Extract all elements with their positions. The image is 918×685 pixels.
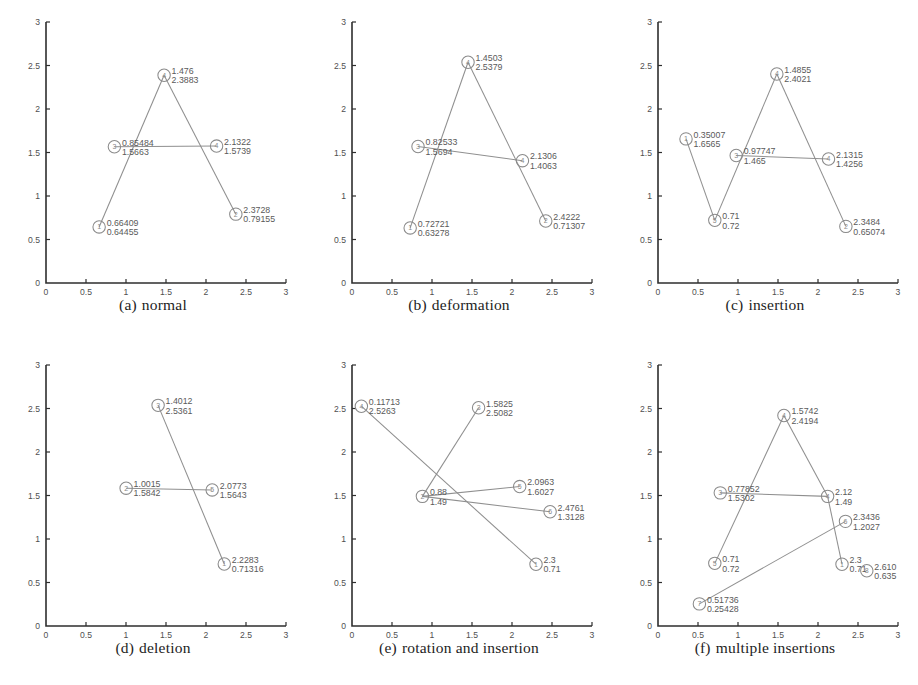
panel-caption-tag-e: (e): [379, 639, 397, 656]
plot-svg-e: 00.511.522.5300.511.522.5340.117132.5263…: [306, 343, 612, 643]
point-id-c-0: 1: [684, 135, 688, 142]
point-label-y-d-3: 0.71316: [232, 564, 264, 574]
point-id-f-0: 7: [697, 600, 701, 607]
y-tick-label-c-4: 2: [647, 104, 652, 114]
point-id-a-3: 4: [215, 142, 219, 149]
edges-a: [99, 75, 236, 227]
point-id-f-3: 4: [782, 411, 786, 418]
axis-lines-f: [658, 365, 898, 626]
point-id-f-5: 6: [844, 517, 848, 524]
point-label-y-a-4: 0.79155: [243, 214, 275, 224]
edges-f: [699, 415, 845, 603]
y-tick-label-c-3: 1.5: [640, 148, 652, 158]
y-tick-label-a-5: 2.5: [28, 61, 40, 71]
y-tick-label-c-6: 3: [647, 17, 652, 27]
edge-e-0: [361, 406, 536, 564]
point-label-y-b-3: 1.4063: [530, 161, 557, 171]
panel-a: 00.511.522.5300.511.522.5310.664090.6445…: [0, 0, 306, 343]
point-label-y-a-2: 2.3883: [172, 75, 199, 85]
y-tick-label-e-3: 1.5: [334, 490, 346, 500]
point-label-y-b-4: 0.71307: [553, 221, 585, 231]
point-label-y-c-3: 2.4021: [784, 74, 811, 84]
y-tick-label-f-0: 0: [647, 621, 652, 631]
panel-caption-tag-f: (f): [695, 639, 711, 656]
point-label-y-d-1: 2.5361: [166, 405, 193, 415]
edge-b-1: [468, 62, 546, 221]
points-e: 40.117132.526320.881.4931.58252.508252.0…: [355, 397, 584, 574]
y-tick-label-a-0: 0: [35, 278, 40, 288]
plot-area-c: 00.511.522.5300.511.522.5310.350071.6565…: [612, 0, 918, 300]
point-id-e-1: 2: [420, 492, 424, 499]
y-tick-label-c-1: 0.5: [640, 235, 652, 245]
y-tick-label-c-5: 2.5: [640, 61, 652, 71]
point-label-y-d-0: 1.5842: [134, 488, 161, 498]
panel-b: 00.511.522.5300.511.522.5310.727210.6327…: [306, 0, 612, 343]
y-tick-label-e-4: 2: [341, 447, 346, 457]
point-label-y-a-3: 1.5739: [224, 146, 251, 156]
edges-e: [361, 406, 550, 564]
point-label-y-c-5: 0.65074: [853, 227, 885, 237]
point-id-c-4: 4: [827, 155, 831, 162]
point-id-f-4: 4: [826, 492, 830, 499]
edge-c-0: [686, 139, 715, 220]
plot-area-f: 00.511.522.5300.511.522.5370.517360.2542…: [612, 343, 918, 643]
point-id-b-3: 4: [520, 157, 524, 164]
y-tick-label-b-6: 3: [341, 17, 346, 27]
point-label-y-c-4: 1.4256: [836, 159, 863, 169]
y-tick-label-e-5: 2.5: [334, 403, 346, 413]
point-id-e-2: 3: [477, 404, 481, 411]
y-tick-label-b-0: 0: [341, 278, 346, 288]
point-id-d-3: 1: [222, 560, 226, 567]
point-id-a-0: 1: [97, 223, 101, 230]
panel-caption-tag-c: (c): [726, 296, 744, 313]
panel-caption-b: (b)deformation: [306, 296, 612, 314]
panel-caption-f: (f)multiple insertions: [612, 639, 918, 657]
panel-d: 00.511.522.5300.511.522.5321.00151.58423…: [0, 343, 306, 685]
panel-caption-tag-b: (b): [408, 296, 427, 313]
point-label-y-f-5: 1.2027: [853, 521, 880, 531]
points-a: 10.664090.6445530.854841.566341.4762.388…: [93, 66, 275, 237]
y-tick-label-d-2: 1: [35, 534, 40, 544]
point-id-c-1: 5: [713, 217, 717, 224]
point-label-y-a-0: 0.64455: [107, 227, 139, 237]
plot-area-d: 00.511.522.5300.511.522.5321.00151.58423…: [0, 343, 306, 643]
y-tick-label-e-1: 0.5: [334, 577, 346, 587]
point-label-y-e-0: 2.5263: [369, 406, 396, 416]
y-tick-label-d-5: 2.5: [28, 403, 40, 413]
point-label-y-f-3: 2.4194: [791, 415, 818, 425]
point-id-f-6: 1: [840, 560, 844, 567]
y-tick-label-a-3: 1.5: [28, 148, 40, 158]
point-id-e-0: 4: [359, 402, 363, 409]
point-id-a-2: 4: [162, 72, 166, 79]
y-tick-label-a-4: 2: [35, 104, 40, 114]
y-tick-label-f-3: 1.5: [640, 490, 652, 500]
plot-svg-d: 00.511.522.5300.511.522.5321.00151.58423…: [0, 343, 306, 643]
point-id-d-0: 2: [124, 484, 128, 491]
y-tick-label-b-3: 1.5: [334, 148, 346, 158]
panel-caption-text-f: multiple insertions: [716, 639, 836, 656]
y-tick-label-d-1: 0.5: [28, 577, 40, 587]
point-id-f-2: 3: [718, 489, 722, 496]
panel-caption-text-e: rotation and insertion: [402, 639, 539, 656]
y-tick-label-f-6: 3: [647, 360, 652, 370]
point-label-y-c-0: 1.6565: [694, 139, 721, 149]
plot-area-b: 00.511.522.5300.511.522.5310.727210.6327…: [306, 0, 612, 300]
point-id-e-3: 5: [518, 482, 522, 489]
y-tick-label-e-2: 1: [341, 534, 346, 544]
point-label-y-f-1: 0.72: [722, 563, 739, 573]
point-id-c-2: 3: [734, 152, 738, 159]
y-tick-label-b-4: 2: [341, 104, 346, 114]
plot-area-a: 00.511.522.5300.511.522.5310.664090.6445…: [0, 0, 306, 300]
plot-svg-f: 00.511.522.5300.511.522.5370.517360.2542…: [612, 343, 918, 643]
point-id-b-4: 2: [544, 217, 548, 224]
point-label-y-b-1: 1.5694: [426, 147, 453, 157]
points-b: 10.727210.6327830.825331.569441.45032.53…: [404, 53, 585, 238]
panel-c: 00.511.522.5300.511.522.5310.350071.6565…: [612, 0, 918, 343]
plot-svg-a: 00.511.522.5300.511.522.5310.664090.6445…: [0, 0, 306, 300]
points-f: 70.517360.2542850.710.7230.778521.530241…: [693, 406, 896, 614]
point-label-y-b-2: 2.5379: [476, 62, 503, 72]
point-label-y-d-2: 1.5643: [220, 490, 247, 500]
point-id-f-1: 5: [713, 559, 717, 566]
y-tick-label-c-0: 0: [647, 278, 652, 288]
panel-e: 00.511.522.5300.511.522.5340.117132.5263…: [306, 343, 612, 685]
